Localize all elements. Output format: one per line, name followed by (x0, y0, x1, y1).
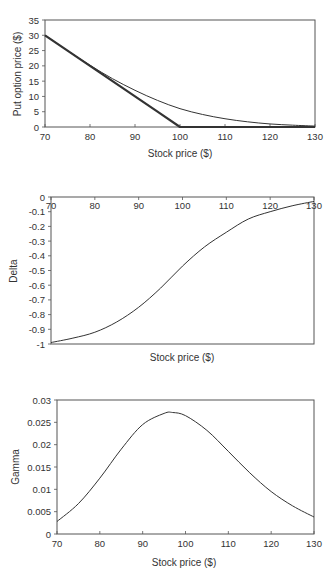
x-tick-label: 100 (178, 538, 194, 549)
y-tick-label: -0.6 (29, 280, 45, 291)
y-tick-label: -0.2 (29, 221, 45, 232)
delta-ylabel: Delta (8, 259, 19, 283)
x-tick-label: 110 (221, 538, 236, 549)
y-tick-label: 0.01 (33, 484, 52, 495)
y-tick-label: 5 (34, 106, 39, 117)
x-tick-label: 120 (263, 538, 279, 549)
x-tick-label: 90 (137, 538, 148, 549)
y-tick-label: 20 (28, 60, 39, 71)
y-tick-label: 30 (28, 30, 39, 41)
y-tick-label: -0.4 (29, 250, 45, 261)
x-tick-label: 130 (306, 538, 322, 549)
x-tick-label: 70 (52, 538, 63, 549)
y-tick-label: 0.025 (27, 417, 51, 428)
put-price-xlabel: Stock price ($) (148, 148, 212, 159)
y-tick-label: 0 (46, 529, 51, 540)
plot-frame (45, 20, 315, 127)
plot-frame (57, 400, 314, 534)
y-tick-label: 35 (28, 15, 39, 26)
x-tick-label: 80 (85, 131, 96, 142)
y-tick-label: 0.015 (27, 462, 51, 473)
delta-xlabel: Stock price ($) (150, 352, 214, 363)
x-tick-label: 110 (219, 200, 234, 211)
gamma-ylabel: Gamma (10, 449, 21, 485)
x-tick-label: 80 (95, 538, 106, 549)
gamma-xlabel: Stock price ($) (152, 557, 216, 568)
y-tick-label: 0 (34, 122, 39, 133)
gamma-line (57, 412, 314, 521)
y-tick-label: 25 (28, 45, 39, 56)
x-tick-label: 80 (90, 200, 101, 211)
y-tick-label: -1 (37, 339, 45, 350)
y-tick-label: -0.3 (29, 236, 45, 247)
y-tick-label: -0.1 (29, 206, 45, 217)
x-tick-label: 70 (40, 131, 51, 142)
x-tick-label: 110 (217, 131, 232, 142)
y-tick-label: 10 (28, 91, 39, 102)
x-tick-label: 130 (307, 131, 323, 142)
delta-line (51, 201, 314, 342)
x-tick-label: 130 (306, 200, 322, 211)
y-tick-label: 0 (40, 192, 45, 203)
x-tick-label: 90 (133, 200, 144, 211)
y-tick-label: 0.03 (33, 395, 52, 406)
x-tick-label: 100 (172, 131, 188, 142)
y-tick-label: 0.005 (27, 506, 51, 517)
intrinsic-value-line (45, 35, 315, 127)
x-tick-label: 100 (175, 200, 191, 211)
y-tick-label: 15 (28, 76, 39, 87)
x-tick-label: 120 (262, 200, 278, 211)
put-price-plot: 70809010011012013005101520253035 Put opt… (0, 0, 332, 175)
x-tick-label: 70 (46, 200, 57, 211)
y-tick-label: -0.7 (29, 294, 45, 305)
y-tick-label: -0.8 (29, 309, 45, 320)
put-price-chart: 70809010011012013005101520253035 Put opt… (0, 0, 332, 175)
y-tick-label: 0.02 (33, 439, 52, 450)
plot-frame (51, 197, 314, 344)
put-price-ylabel: Put option price ($) (12, 32, 23, 117)
x-tick-label: 90 (130, 131, 141, 142)
y-tick-label: -0.9 (29, 324, 45, 335)
x-tick-label: 120 (262, 131, 278, 142)
y-tick-label: -0.5 (29, 265, 45, 276)
option-value-line (45, 35, 315, 126)
